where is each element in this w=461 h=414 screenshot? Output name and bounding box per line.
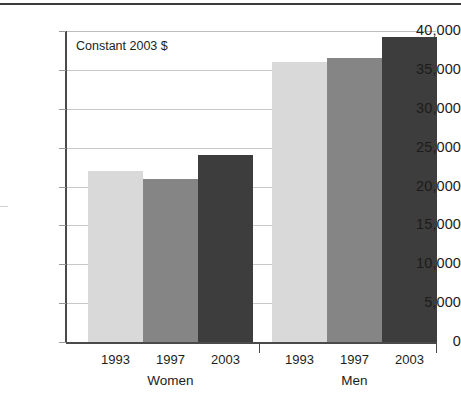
x-axis-line — [66, 342, 437, 344]
bar-women-1993 — [88, 171, 143, 342]
y-axis-tick-mark — [59, 264, 66, 265]
gridline — [66, 31, 436, 32]
x-axis-tick-mark — [259, 344, 260, 353]
x-axis-group-label-men: Men — [305, 373, 405, 388]
y-axis-tick-label: 0 — [403, 333, 461, 349]
y-axis-tick-label: 35,000 — [403, 61, 461, 77]
y-axis-tick-mark — [59, 70, 66, 71]
bar-women-2003 — [198, 155, 253, 342]
y-axis-outer-tick — [0, 206, 8, 207]
chart-annotation: Constant 2003 $ — [76, 39, 168, 53]
x-axis-tick-label: 2003 — [198, 352, 253, 367]
y-axis-tick-mark — [59, 148, 66, 149]
y-axis-tick-label: 20,000 — [403, 178, 461, 194]
x-axis-tick-label: 1997 — [327, 352, 382, 367]
y-axis-tick-mark — [59, 187, 66, 188]
y-axis-tick-label: 15,000 — [403, 216, 461, 232]
y-axis-tick-label: 5,000 — [403, 294, 461, 310]
bar-women-1997 — [143, 179, 198, 342]
y-axis-tick-mark — [59, 342, 66, 343]
x-axis-tick-label: 1997 — [143, 352, 198, 367]
y-axis-tick-label: 10,000 — [403, 255, 461, 271]
bar-men-1997 — [327, 58, 382, 342]
x-axis-tick-mark — [436, 344, 437, 353]
bar-chart: Constant 2003 $ 40,00035,00030,00025,000… — [0, 0, 461, 414]
y-axis-tick-mark — [59, 225, 66, 226]
y-axis-tick-mark — [59, 31, 66, 32]
plot-area — [66, 31, 436, 342]
x-axis-tick-label: 2003 — [382, 352, 437, 367]
x-axis-group-label-women: Women — [121, 373, 221, 388]
y-axis-tick-label: 40,000 — [403, 22, 461, 38]
bar-men-1993 — [272, 62, 327, 342]
y-axis-tick-mark — [59, 109, 66, 110]
y-axis-tick-mark — [59, 303, 66, 304]
x-axis-tick-label: 1993 — [272, 352, 327, 367]
y-axis-tick-label: 25,000 — [403, 139, 461, 155]
y-axis-tick-label: 30,000 — [403, 100, 461, 116]
x-axis-tick-label: 1993 — [88, 352, 143, 367]
